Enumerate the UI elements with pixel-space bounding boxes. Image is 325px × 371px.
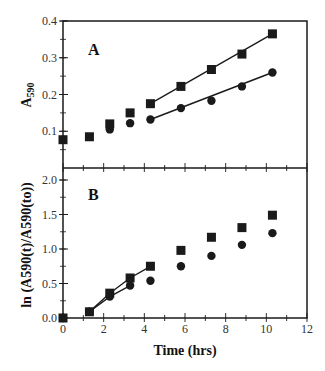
x-tick-label: 10 (260, 322, 272, 336)
square-marker (207, 233, 216, 242)
circle-marker (126, 119, 134, 127)
square-marker (176, 82, 185, 91)
circle-marker (85, 308, 93, 316)
circle-marker (59, 314, 67, 322)
axes: 0.10.20.30.40.00.51.01.52.0024681012 (42, 14, 313, 336)
circle-marker (146, 115, 154, 123)
square-marker (126, 108, 135, 117)
square-marker (268, 29, 277, 38)
circle-marker (106, 125, 114, 133)
square-marker (126, 273, 135, 282)
y-axis-a-title: A590 (19, 82, 36, 107)
square-marker (176, 246, 185, 255)
y-tick-label: 0.5 (42, 277, 57, 291)
circle-marker (106, 292, 114, 300)
panel-b-label: B (88, 186, 99, 203)
y-tick-label: 2.0 (42, 173, 57, 187)
circle-marker (268, 68, 276, 76)
svg-text:ln (A590(t)/A590(to)): ln (A590(t)/A590(to)) (19, 182, 35, 308)
x-axis-title: Time (hrs) (153, 343, 216, 359)
x-tick-label: 4 (141, 322, 147, 336)
y-tick-label: 1.5 (42, 208, 57, 222)
y-tick-label: 0.4 (42, 14, 57, 28)
data-points (59, 29, 277, 322)
circle-marker (238, 82, 246, 90)
circle-marker (207, 252, 215, 260)
x-tick-label: 8 (223, 322, 229, 336)
x-tick-label: 0 (60, 322, 66, 336)
fit-line-circles (150, 73, 272, 120)
square-marker (85, 132, 94, 141)
y-tick-label: 0.3 (42, 51, 57, 65)
circle-marker (238, 241, 246, 249)
y-axis-b-title: ln (A590(t)/A590(to)) (19, 182, 35, 308)
square-marker (237, 50, 246, 59)
square-marker (146, 262, 155, 271)
x-tick-label: 12 (301, 322, 313, 336)
svg-text:A590: A590 (19, 82, 36, 107)
y-tick-label: 1.0 (42, 242, 57, 256)
circle-marker (268, 229, 276, 237)
square-marker (59, 135, 68, 144)
y-tick-label: 0.1 (42, 124, 57, 138)
square-marker (237, 223, 246, 232)
circle-marker (177, 262, 185, 270)
circle-marker (177, 104, 185, 112)
kinetics-chart: 0.10.20.30.40.00.51.01.52.0024681012 A B… (0, 0, 325, 371)
y-tick-label: 0.2 (42, 88, 57, 102)
square-marker (268, 211, 277, 220)
circle-marker (146, 277, 154, 285)
x-tick-label: 2 (101, 322, 107, 336)
panel-a-label: A (88, 41, 100, 58)
circle-marker (207, 97, 215, 105)
y-tick-label: 0.0 (42, 311, 57, 325)
x-tick-label: 6 (182, 322, 188, 336)
square-marker (207, 65, 216, 74)
circle-marker (126, 281, 134, 289)
square-marker (146, 99, 155, 108)
